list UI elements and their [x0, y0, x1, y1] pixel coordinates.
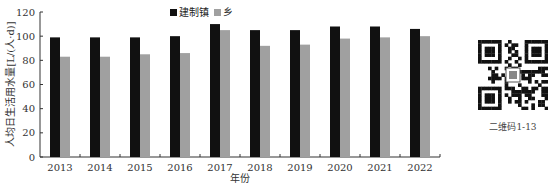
bar-2015-1 [140, 54, 150, 157]
legend-label: 建制镇 [179, 6, 209, 18]
y-tick-label: 0 [29, 152, 35, 163]
bar-2013-0 [50, 37, 60, 157]
bar-2016-1 [180, 53, 190, 157]
qr-code-icon [478, 40, 548, 110]
bar-2022-1 [420, 36, 430, 157]
chart-bars [50, 24, 430, 157]
y-tick-label: 120 [16, 7, 35, 18]
bar-chart: 0204060801001202013201420152016201720182… [0, 0, 470, 190]
x-tick-label: 2020 [327, 162, 352, 173]
x-tick-label: 2015 [127, 162, 152, 173]
bar-2019-1 [300, 45, 310, 157]
bar-2018-0 [250, 30, 260, 157]
bar-2020-0 [330, 27, 340, 158]
x-tick-label: 2016 [167, 162, 192, 173]
qr-caption: 二维码1-13 [478, 120, 548, 133]
legend-label: 乡 [223, 7, 233, 18]
bar-2018-1 [260, 46, 270, 157]
x-tick-label: 2019 [287, 162, 312, 173]
bar-2022-0 [410, 29, 420, 157]
chart-legend: 建制镇乡 [170, 6, 233, 18]
x-tick-label: 2017 [207, 162, 232, 173]
bar-2013-1 [60, 57, 70, 157]
bar-2015-0 [130, 37, 140, 157]
x-tick-label: 2014 [87, 162, 112, 173]
x-tick-label: 2013 [47, 162, 72, 173]
bar-2014-1 [100, 57, 110, 157]
x-axis-label: 年份 [230, 172, 250, 184]
bar-2017-0 [210, 24, 220, 157]
x-tick-label: 2021 [367, 162, 392, 173]
y-tick-label: 80 [22, 55, 35, 66]
bar-2019-0 [290, 30, 300, 157]
qr-code[interactable] [478, 40, 548, 114]
y-tick-label: 40 [22, 103, 35, 114]
y-tick-label: 60 [22, 79, 35, 90]
x-tick-label: 2022 [407, 162, 432, 173]
x-tick-label: 2018 [247, 162, 272, 173]
y-tick-label: 100 [16, 31, 35, 42]
bar-2014-0 [90, 37, 100, 157]
bar-2021-1 [380, 37, 390, 157]
y-axis-label: 人均日生活用水量[L/(人·d)] [4, 21, 16, 146]
bar-2021-0 [370, 27, 380, 158]
bar-2020-1 [340, 39, 350, 157]
bar-2016-0 [170, 36, 180, 157]
y-tick-label: 20 [22, 127, 35, 138]
bar-2017-1 [220, 30, 230, 157]
